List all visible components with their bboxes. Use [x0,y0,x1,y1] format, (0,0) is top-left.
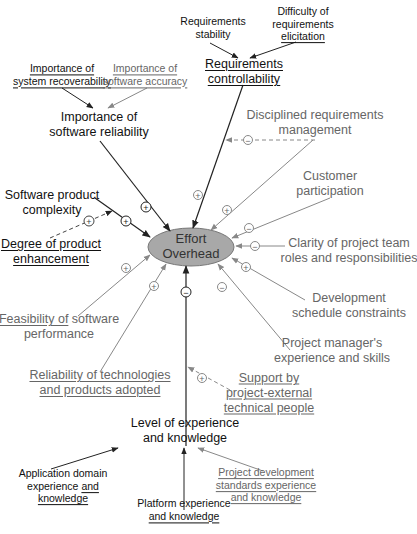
sign-minus-pm: − [218,283,227,293]
node-importance-recoverability: Importance ofsystem recoverability [13,62,111,87]
node-requirements-stability: Requirementsstability [180,15,245,40]
svg-text:+: + [151,282,156,292]
sign-plus-feasibility: + [122,264,131,274]
sign-plus-reliability: + [141,202,151,213]
node-application-domain: Application domainexperience andknowledg… [19,467,108,505]
effort-overhead-node: EffortOverhead [148,228,234,266]
node-pm-experience: Project manager'sexperience and skills [274,336,390,366]
node-importance-reliability: Importance ofsoftware reliability [49,110,148,140]
node-level-experience: Level of experienceand knowledge [131,416,239,446]
node-feasibility-performance: Feasibility of softwareperformance [0,312,119,342]
svg-text:−: − [252,242,257,252]
node-software-complexity: Software productcomplexity [5,188,100,218]
node-importance-accuracy: Importance ofsoftware accuracy [103,62,188,87]
sign-plus-disciplined: + [223,206,232,216]
sign-minus-clarity: − [251,242,260,252]
sign-plus-support: + [198,374,207,384]
svg-text:+: + [224,206,229,216]
svg-text:+: + [199,374,204,384]
sign-minus-customer: − [245,224,254,234]
node-requirements-controllability: Requirementscontrollability [205,57,283,87]
node-difficulty-elicitation: Difficulty ofrequirementselicitation [272,5,333,43]
svg-text:−: − [246,224,251,234]
sign-plus-complexity: + [121,216,131,227]
svg-text:+: + [86,217,91,227]
svg-text:+: + [123,264,128,274]
node-project-dev-standards: Project developmentstandards experiencea… [216,466,316,504]
sign-minus-level: − [181,287,191,298]
svg-text:−: − [183,288,188,298]
svg-text:+: + [243,263,248,273]
node-reliability-technologies: Reliability of technologiesand products … [29,368,170,398]
node-support-external: Support byproject-externaltechnical peop… [224,371,314,416]
node-development-schedule: Developmentschedule constraints [292,291,406,321]
sign-plus-devschedule: + [242,263,251,273]
svg-text:+: + [123,217,128,227]
svg-text:+: + [143,203,148,213]
node-customer-participation: Customerparticipation [296,169,363,199]
effort-label: Effort [176,231,207,246]
svg-text:−: − [219,283,224,293]
sign-plus-reltech: + [150,282,159,292]
node-clarity-roles: Clarity of project teamroles and respons… [281,236,417,266]
svg-text:+: + [195,191,200,201]
overhead-label: Overhead [162,246,219,261]
node-degree-enhancement: Degree of productenhancement [1,237,101,267]
node-disciplined-requirements: Disciplined requirementsmanagement [247,108,384,138]
sign-plus-reqcontrol: + [194,191,203,201]
